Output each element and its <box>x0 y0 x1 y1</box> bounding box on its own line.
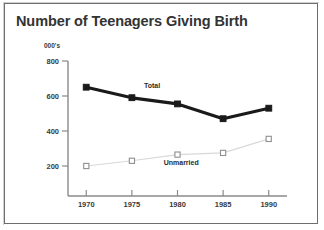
series-annotation-label: Unmarried <box>164 159 199 166</box>
chart-screenshot: Number of Teenagers Giving Birth 000's 8… <box>0 0 324 230</box>
data-point-marker-unmarried <box>266 136 271 141</box>
series-total <box>83 84 271 121</box>
data-point-marker-total <box>129 95 135 101</box>
x-axis-tick-labels: 19701975198019851990 <box>78 200 277 209</box>
y-tick-label: 400 <box>46 127 59 136</box>
y-tick-label: 200 <box>46 162 59 171</box>
series-annotation-label: Total <box>144 82 160 89</box>
x-axis-ticks <box>86 190 269 196</box>
data-point-marker-total <box>220 116 226 122</box>
data-point-marker-total <box>83 84 89 90</box>
data-point-marker-total <box>175 101 181 107</box>
data-point-marker-unmarried <box>175 152 180 157</box>
x-tick-label: 1970 <box>78 200 95 209</box>
line-chart-plot: 000's 800600400200 19701975198019851990 … <box>0 0 324 230</box>
data-point-marker-total <box>266 105 272 111</box>
x-tick-label: 1975 <box>124 200 141 209</box>
y-axis-unit-label: 000's <box>44 42 60 49</box>
data-point-marker-unmarried <box>84 163 89 168</box>
y-tick-label: 800 <box>46 57 59 66</box>
y-tick-label: 600 <box>46 92 59 101</box>
x-tick-label: 1980 <box>169 200 186 209</box>
series-annotations: TotalUnmarried <box>144 82 199 166</box>
y-axis-ticks <box>62 61 68 166</box>
data-point-marker-unmarried <box>129 158 134 163</box>
x-tick-label: 1990 <box>260 200 277 209</box>
x-tick-label: 1985 <box>215 200 232 209</box>
y-axis-tick-labels: 800600400200 <box>46 57 59 171</box>
data-point-marker-unmarried <box>221 150 226 155</box>
